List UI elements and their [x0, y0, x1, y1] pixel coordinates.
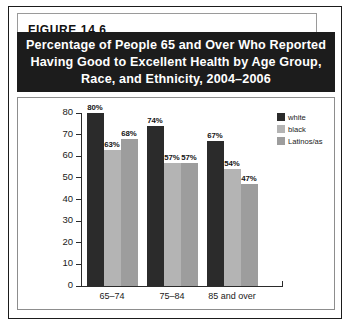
- bar-black-2: 57%: [164, 163, 181, 286]
- bar-black-1: 63%: [104, 150, 121, 286]
- y-axis-tick-mark: [76, 286, 81, 287]
- legend-swatch: [277, 113, 285, 121]
- bar-latinos-as-1: 68%: [121, 139, 138, 286]
- chart-legend: whiteblackLatinos/as: [277, 112, 323, 148]
- y-axis-tick-mark: [76, 177, 81, 178]
- bar-value-label: 57%: [164, 153, 180, 162]
- bar-white-2: 74%: [147, 126, 164, 286]
- x-axis-end-cap: [282, 281, 283, 287]
- y-axis-tick-mark: [76, 221, 81, 222]
- figure-title-line-1: Percentage of People 65 and Over Who Rep…: [23, 37, 329, 54]
- bar-value-label: 80%: [87, 103, 103, 112]
- y-axis-tick-label: 50: [62, 171, 73, 182]
- y-axis-tick-label: 30: [62, 214, 73, 225]
- y-axis-tick-mark: [76, 156, 81, 157]
- legend-item-white: white: [277, 112, 323, 122]
- y-axis-tick-mark: [76, 113, 81, 114]
- y-axis-tick-label: 10: [62, 257, 73, 268]
- y-axis-tick-mark: [76, 242, 81, 243]
- legend-swatch: [277, 137, 285, 145]
- y-axis-tick-mark: [76, 199, 81, 200]
- bar-value-label: 47%: [241, 174, 257, 183]
- y-axis-tick-label: 70: [62, 128, 73, 139]
- y-axis-tick-label: 0: [68, 279, 73, 290]
- bar-value-label: 57%: [181, 153, 197, 162]
- legend-swatch: [277, 125, 285, 133]
- chart-plot-frame: 01020304050607080 80%63%68%74%57%57%67%5…: [17, 97, 335, 310]
- figure-title-line-3: Race, and Ethnicity, 2004–2006: [23, 71, 329, 88]
- legend-label: white: [288, 113, 306, 122]
- y-axis-tick-label: 80: [62, 106, 73, 117]
- bar-latinos-as-3: 47%: [241, 184, 258, 286]
- bar-value-label: 67%: [207, 131, 223, 140]
- legend-label: black: [288, 125, 306, 134]
- bar-white-1: 80%: [87, 113, 104, 286]
- bar-value-label: 74%: [147, 116, 163, 125]
- x-axis-category-label: 85 and over: [208, 291, 256, 301]
- bars-layer: 80%63%68%74%57%57%67%54%47%: [82, 113, 262, 286]
- bar-value-label: 63%: [104, 140, 120, 149]
- figure-title-line-2: Having Good to Excellent Health by Age G…: [23, 54, 329, 71]
- bar-latinos-as-2: 57%: [181, 163, 198, 286]
- y-axis-tick-label: 40: [62, 193, 73, 204]
- legend-label: Latinos/as: [288, 137, 323, 146]
- y-axis-tick-mark: [76, 134, 81, 135]
- bar-black-3: 54%: [224, 169, 241, 286]
- bar-value-label: 68%: [121, 129, 137, 138]
- x-axis-line: [81, 286, 283, 287]
- figure-title-band: Percentage of People 65 and Over Who Rep…: [17, 32, 335, 92]
- bar-chart: 01020304050607080 80%63%68%74%57%57%67%5…: [18, 98, 334, 309]
- y-axis-tick-label: 20: [62, 236, 73, 247]
- x-axis-category-label: 65–74: [99, 291, 124, 301]
- y-axis-tick-label: 60: [62, 149, 73, 160]
- bar-value-label: 54%: [224, 159, 240, 168]
- figure-card: FIGURE 14.6 Percentage of People 65 and …: [8, 6, 342, 319]
- bar-white-3: 67%: [207, 141, 224, 286]
- legend-item-latinos-as: Latinos/as: [277, 136, 323, 146]
- legend-item-black: black: [277, 124, 323, 134]
- x-axis-category-label: 75–84: [159, 291, 184, 301]
- y-axis-tick-mark: [76, 264, 81, 265]
